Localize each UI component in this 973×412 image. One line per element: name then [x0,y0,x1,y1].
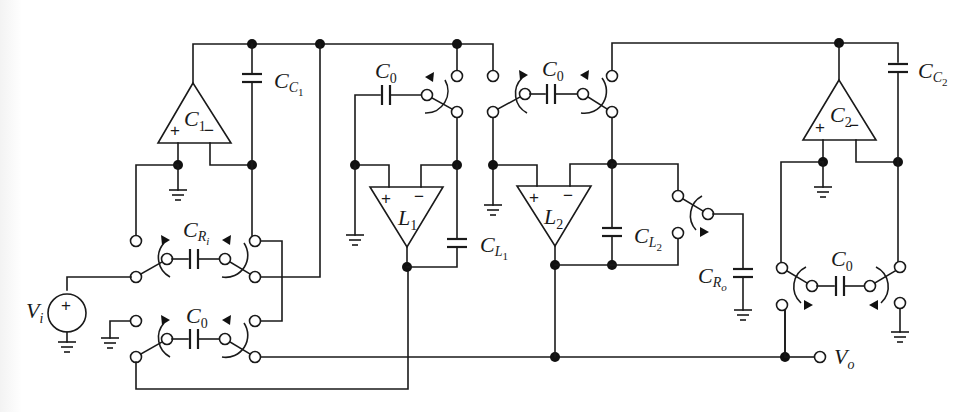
c0-output-label: C [831,246,846,271]
opamp-l2-plus: + [529,188,539,207]
svg-text:C0: C0 [831,246,853,274]
opamp-l1-minus: − [414,187,424,206]
opamp-l2-minus: − [563,186,573,205]
c0-l1-label: C [375,58,390,83]
wire-bottom-bus [261,305,785,357]
svg-text:CC2: CC2 [918,58,948,88]
vo-port: Vo [834,344,854,372]
opamp-c2: + − C2 [781,38,903,266]
c0-l2-label: C [542,56,557,81]
c0-input-label: C [186,303,201,328]
svg-text:C2: C2 [830,102,852,130]
capacitor-cc1: CC1 [242,44,304,236]
svg-text:CRi: CRi [183,217,209,247]
wire-cri-to-c0 [261,241,282,321]
cc2-label: C [918,58,933,83]
opamp-c2-plus: + [815,118,825,137]
cro-label: C [698,263,713,288]
opamp-l2-label: L [543,204,556,229]
svg-text:L1: L1 [397,205,417,233]
opamp-c1: + − C1 [136,83,257,236]
cc1-label: C [274,68,289,93]
circuit-diagram: + − C1 CC1 CRi + V [0,0,973,412]
switch-c0-l2[interactable]: C0 [488,56,618,118]
switch-c0-output[interactable]: C0 [777,246,910,342]
opamp-c1-plus: + [170,121,180,140]
svg-text:CC1: CC1 [274,68,304,98]
svg-text:L2: L2 [543,204,563,232]
svg-text:Vi: Vi [26,298,43,326]
svg-text:C0: C0 [375,58,397,86]
svg-text:C0: C0 [186,303,208,331]
wire-feedback-l1 [136,267,408,389]
switch-c0-l1[interactable]: C0 [355,58,463,163]
schematic: + − C1 CC1 CRi + V [0,0,973,412]
vi-plus: + [61,296,71,315]
opamp-c2-label: C [830,102,845,127]
opamp-c1-label: C [184,106,199,131]
svg-text:C0: C0 [542,56,564,84]
top-rail-left [193,39,493,83]
cl1-label: C [480,232,495,257]
cri-label: C [183,217,198,242]
voltage-source-vi: + Vi [26,294,86,352]
vo-terminal[interactable] [815,352,826,363]
svg-text:CL1: CL1 [480,232,508,262]
top-rail-right [612,43,898,70]
opamp-l1-label: L [397,205,410,230]
opamp-l1: + − L1 [346,160,462,272]
wire-vi [67,277,131,290]
opamp-l1-plus: + [381,189,391,208]
cl2-label: C [634,223,649,248]
svg-text:CL2: CL2 [634,223,662,253]
svg-text:CRo: CRo [698,263,727,293]
switch-cri[interactable]: CRi [131,217,261,283]
svg-text:C1: C1 [184,106,206,134]
switch-c0-input[interactable]: C0 [101,303,261,363]
capacitor-cl2: CL2 [555,164,678,270]
